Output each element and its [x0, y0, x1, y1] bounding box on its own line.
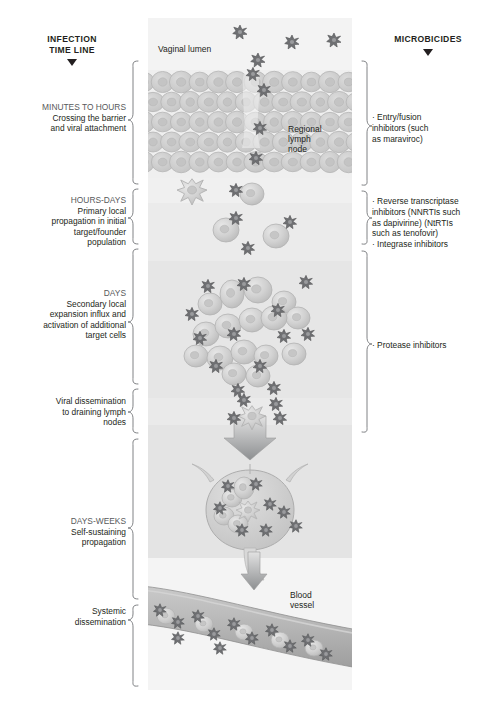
timeline-line: Crossing the barrier [42, 113, 126, 124]
bracket-left-systemic-dissemination [128, 605, 138, 686]
timeline-line: Systemic [75, 606, 126, 617]
timeline-line: and viral attachment [42, 123, 126, 134]
timeline-line: to draining lymph [56, 407, 126, 418]
label-vaginal-lumen: Vaginal lumen [158, 44, 211, 54]
bracket-right-protease [362, 251, 372, 432]
microbicide-line: · Protease inhibitors [372, 340, 486, 351]
epithelium-layer [148, 71, 352, 173]
bracket-left-minutes-to-hours [128, 61, 138, 184]
timeline-item-systemic-dissemination: Systemic dissemination [75, 606, 126, 627]
timeline-item-viral-dissemination: Viral dissemination to draining lymph no… [56, 396, 126, 428]
timeline-line: target/founder [52, 227, 127, 238]
timeline-line: target cells [43, 330, 126, 341]
bracket-right-reverse-transcriptase [362, 191, 372, 244]
label-lymph-node-line-3: node [288, 144, 346, 154]
microbicide-line: · Reverse transcriptase [372, 196, 486, 207]
label-blood-vessel-line-1: Blood [290, 590, 346, 600]
timeline-item-days-weeks: DAYS-WEEKS Self-sustaining propagation [71, 516, 126, 548]
timeline-item-hours-days: HOURS-DAYS Primary local propagation in … [52, 195, 127, 248]
bracket-left-days-weeks [128, 439, 138, 599]
label-lymph-node-line-2: lymph [288, 134, 346, 144]
timeline-heading: HOURS-DAYS [52, 195, 127, 206]
timeline-item-minutes-to-hours: MINUTES TO HOURS Crossing the barrier an… [42, 102, 126, 134]
bracket-left-days [128, 249, 138, 384]
bracket-left-hours-days [128, 189, 138, 244]
label-lymph-node-line-1: Regional [288, 124, 346, 134]
timeline-line: Secondary local [43, 299, 126, 310]
timeline-line: Primary local [52, 206, 127, 217]
figure-caption [8, 700, 482, 712]
figure-root: Vaginal lumen Regional lymph node Blood … [0, 0, 490, 712]
label-blood-vessel: Blood vessel [290, 590, 346, 610]
microbicides-header: MICROBICIDES [372, 34, 484, 56]
microbicide-line: · Integrase inhibitors [372, 239, 486, 250]
timeline-line: activation of additional [43, 320, 126, 331]
down-triangle-icon [67, 59, 77, 66]
timeline-line: propagation [71, 537, 126, 548]
microbicide-item-protease: · Protease inhibitors [372, 340, 486, 351]
timeline-heading: DAYS [43, 288, 126, 299]
infection-header-line-1: INFECTION [14, 34, 130, 45]
illustration-panel: Vaginal lumen Regional lymph node Blood … [148, 18, 352, 690]
down-triangle-icon [423, 49, 433, 56]
timeline-heading: DAYS-WEEKS [71, 516, 126, 527]
timeline-heading: MINUTES TO HOURS [42, 102, 126, 113]
bracket-left-viral-dissemination [128, 389, 138, 433]
timeline-item-days: DAYS Secondary local expansion influx an… [43, 288, 126, 341]
microbicide-line: as dapivirine) (NtRTIs [372, 218, 486, 229]
microbicide-line: inhibitors (NNRTIs such [372, 207, 486, 218]
infection-timeline-header: INFECTION TIME LINE [14, 34, 130, 66]
microbicide-item-reverse-transcriptase: · Reverse transcriptase inhibitors (NNRT… [372, 196, 486, 250]
microbicide-line: as maraviroc) [372, 134, 486, 145]
microbicide-item-entry-fusion: · Entry/fusion inhibitors (such as marav… [372, 112, 486, 144]
microbicide-line: inhibitors (such [372, 123, 486, 134]
infection-header-line-2: TIME LINE [14, 45, 130, 56]
timeline-line: dissemination [75, 617, 126, 628]
bracket-right-entry-fusion [362, 61, 372, 185]
timeline-line: Self-sustaining [71, 527, 126, 538]
timeline-line: expansion influx and [43, 309, 126, 320]
timeline-line: propagation in initial [52, 216, 127, 227]
timeline-line: Viral dissemination [56, 396, 126, 407]
timeline-line: population [52, 237, 127, 248]
timeline-line: nodes [56, 417, 126, 428]
label-blood-vessel-line-2: vessel [290, 600, 346, 610]
microbicides-header-title: MICROBICIDES [372, 34, 484, 45]
label-regional-lymph-node: Regional lymph node [288, 124, 346, 154]
microbicide-line: · Entry/fusion [372, 112, 486, 123]
microbicide-line: such as tenofovir) [372, 228, 486, 239]
